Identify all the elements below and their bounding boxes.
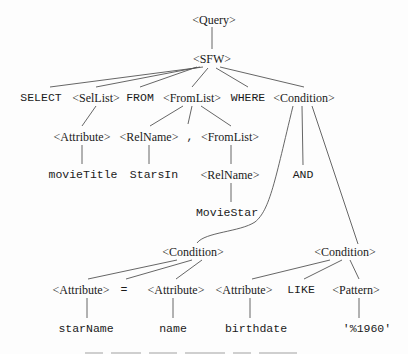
node-relname2: <RelName>: [201, 169, 260, 181]
tree-edge: [82, 106, 96, 126]
node-query: <Query>: [192, 14, 236, 26]
node-like: LIKE: [287, 284, 315, 296]
tree-edge: [302, 106, 303, 165]
tree-edge: [312, 106, 358, 244]
tree-edge: [220, 67, 304, 87]
node-relname1: <RelName>: [120, 131, 179, 143]
node-comma: ,: [187, 131, 194, 143]
node-cond_root: <Condition>: [273, 92, 335, 104]
node-attr4: <Attribute>: [216, 284, 273, 296]
node-pct1960: '%1960': [343, 323, 391, 335]
tree-edge: [201, 106, 231, 126]
node-starname: starName: [58, 323, 113, 335]
parse-tree-diagram: <Query><SFW>SELECT<SelList>FROM<FromList…: [0, 0, 408, 354]
tree-edge: [304, 260, 342, 279]
tree-edge: [150, 106, 183, 126]
tree-edge: [188, 106, 192, 124]
node-eq: =: [121, 284, 128, 296]
tree-edge: [50, 67, 203, 87]
tree-edge: [176, 260, 202, 279]
tree-edge: [216, 68, 248, 87]
node-moviestar: MovieStar: [196, 207, 258, 219]
tree-edge: [126, 260, 192, 279]
node-sfw: <SFW>: [193, 53, 231, 65]
node-attr3: <Attribute>: [148, 284, 205, 296]
node-birthdate: birthdate: [225, 323, 287, 335]
node-attr2: <Attribute>: [53, 284, 110, 296]
node-sellist: <SelList>: [72, 92, 120, 104]
node-and: AND: [293, 169, 314, 181]
node-fromlist1: <FromList>: [163, 92, 221, 104]
tree-edge: [88, 260, 177, 279]
node-attr1: <Attribute>: [54, 131, 111, 143]
node-select: SELECT: [20, 92, 61, 104]
node-fromlist2: <FromList>: [201, 131, 259, 143]
node-name: name: [159, 323, 187, 335]
figure-caption-clipped: [85, 349, 335, 354]
tree-edge: [192, 68, 208, 87]
tree-edge: [350, 260, 359, 279]
node-pattern: <Pattern>: [332, 284, 380, 296]
node-movietitle: movieTitle: [48, 169, 117, 181]
node-where: WHERE: [231, 92, 266, 104]
node-from: FROM: [126, 92, 154, 104]
node-cond_right: <Condition>: [314, 246, 376, 258]
node-cond_left: <Condition>: [162, 246, 224, 258]
node-starsin: StarsIn: [130, 169, 178, 181]
tree-edge: [252, 260, 330, 279]
